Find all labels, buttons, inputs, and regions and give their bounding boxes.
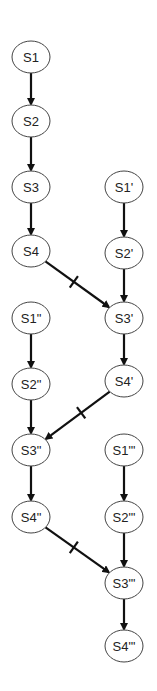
node-label: S1' <box>115 180 133 195</box>
block-tick-icon <box>77 407 85 418</box>
node-label: S3' <box>115 311 133 326</box>
node-label: S3 <box>23 180 39 195</box>
node-label: S4' <box>115 374 133 389</box>
edges-layer <box>31 73 124 629</box>
state-node-s2p: S2' <box>105 237 143 269</box>
node-label: S2" <box>21 377 42 392</box>
node-label: S3" <box>21 443 42 458</box>
node-label: S2"' <box>113 510 136 525</box>
state-node-s3pp: S3" <box>12 434 50 466</box>
node-label: S1 <box>23 50 39 65</box>
state-node-s1: S1 <box>12 41 50 73</box>
state-node-s4ppp: S4"' <box>105 630 143 662</box>
state-node-s1pp: S1" <box>12 302 50 334</box>
state-node-s2ppp: S2"' <box>105 501 143 533</box>
block-tick-icon <box>70 276 78 287</box>
node-label: S2' <box>115 246 133 261</box>
state-diagram: S1S2S3S4S1'S2'S3'S4'S1"S2"S3"S4"S1"'S2"'… <box>0 0 157 691</box>
node-label: S4" <box>21 510 42 525</box>
state-node-s3: S3 <box>12 171 50 203</box>
block-tick-icon <box>70 542 78 553</box>
state-node-s1ppp: S1"' <box>105 434 143 466</box>
blocked-edge-arrow <box>45 261 108 307</box>
node-label: S4 <box>23 244 39 259</box>
state-node-s1p: S1' <box>105 171 143 203</box>
state-node-s2pp: S2" <box>12 368 50 400</box>
state-node-s3ppp: S3"' <box>105 567 143 599</box>
state-node-s4p: S4' <box>105 365 143 397</box>
node-label: S1" <box>21 311 42 326</box>
blocked-edge-arrow <box>46 527 109 572</box>
node-label: S1"' <box>113 443 136 458</box>
state-node-s4pp: S4" <box>12 501 50 533</box>
node-label: S2 <box>23 114 39 129</box>
state-node-s4: S4 <box>12 235 50 267</box>
blocked-edge-arrow <box>46 392 110 439</box>
node-label: S4"' <box>113 639 136 654</box>
state-node-s2: S2 <box>12 105 50 137</box>
node-label: S3"' <box>113 576 136 591</box>
state-node-s3p: S3' <box>105 302 143 334</box>
